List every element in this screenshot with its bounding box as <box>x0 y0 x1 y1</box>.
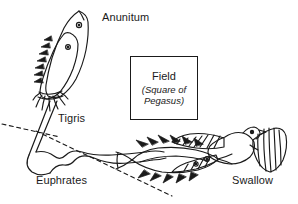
swallow-bird-figure <box>172 127 287 172</box>
label-tigris: Tigris <box>58 112 85 124</box>
label-euphrates: Euphrates <box>36 174 87 186</box>
tigris-channel <box>27 101 57 175</box>
two-fish-figure <box>33 11 88 111</box>
label-swallow: Swallow <box>232 174 273 186</box>
diagram-canvas: Field (Square of Pegasus) Anunitum Tigri… <box>0 0 298 204</box>
field-box: Field (Square of Pegasus) <box>130 56 198 120</box>
field-box-title: Field <box>152 70 176 83</box>
label-anunitum: Anunitum <box>102 11 149 23</box>
dashed-guide-line-upper <box>2 124 60 137</box>
field-box-subtitle: (Square of Pegasus) <box>131 84 197 106</box>
